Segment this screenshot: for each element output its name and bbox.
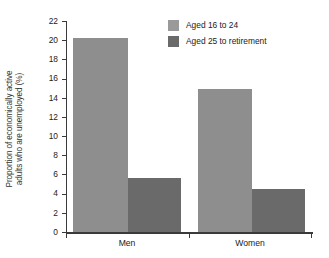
y-axis-title-line-2: adults who are unemployed (%): [15, 73, 26, 185]
y-axis-tick-label: 18: [42, 55, 58, 63]
y-axis-tick-label: 12: [42, 113, 58, 121]
y-axis-tick-label: 22: [42, 17, 58, 25]
bar-women-light: [198, 89, 252, 232]
x-axis-tick-left: [66, 233, 67, 238]
x-axis-tick-right: [311, 233, 312, 238]
y-axis-tick-label: 8: [42, 151, 58, 159]
legend-item-aged-16-to-24: Aged 16 to 24: [168, 19, 267, 32]
x-axis-label-men: Men: [99, 238, 155, 248]
y-axis-tick-label: 4: [42, 189, 58, 197]
y-axis-tick-label: 6: [42, 170, 58, 178]
y-axis-title-line-1: Proportion of economically active: [5, 71, 16, 188]
y-axis-tick-label: 20: [42, 36, 58, 44]
y-axis-tick-label: 16: [42, 74, 58, 82]
legend-item-aged-25-to-retirement: Aged 25 to retirement: [168, 35, 267, 48]
y-axis-tick-label: 2: [42, 209, 58, 217]
legend-swatch-icon-light: [168, 20, 179, 31]
legend: Aged 16 to 24 Aged 25 to retirement: [168, 19, 267, 51]
legend-swatch-icon-dark: [168, 36, 179, 47]
y-axis-title: Proportion of economically active adults…: [0, 0, 30, 258]
x-axis-label-women: Women: [222, 238, 278, 248]
legend-label-aged-25-to-retirement: Aged 25 to retirement: [186, 37, 267, 46]
y-axis-tick-label: 0: [42, 228, 58, 236]
bar-men-dark: [128, 178, 181, 232]
legend-label-aged-16-to-24: Aged 16 to 24: [186, 21, 238, 30]
y-axis-tick-label: 10: [42, 132, 58, 140]
bar-chart: Proportion of economically active adults…: [0, 0, 329, 258]
x-axis-tick-middle: [189, 233, 190, 238]
bar-women-dark: [252, 189, 305, 232]
bar-men-light: [73, 38, 128, 232]
y-axis-line: [66, 21, 67, 233]
y-axis-tick-label: 14: [42, 94, 58, 102]
